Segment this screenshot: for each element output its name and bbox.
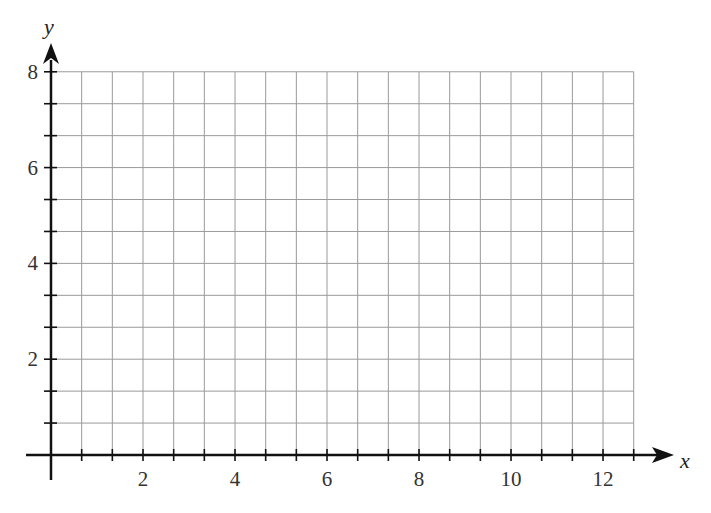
- x-axis-label: x: [679, 448, 690, 473]
- x-tick-label: 6: [322, 467, 333, 491]
- y-axis-label: y: [42, 14, 54, 39]
- y-tick-label: 6: [28, 156, 39, 180]
- y-tick-label: 8: [28, 60, 39, 84]
- tick-labels: 246810122468: [28, 60, 614, 491]
- x-tick-label: 8: [414, 467, 425, 491]
- axes: [26, 43, 674, 480]
- grid-lines: [51, 72, 634, 455]
- x-tick-label: 12: [593, 467, 614, 491]
- y-tick-label: 4: [28, 251, 39, 275]
- x-tick-label: 2: [138, 467, 149, 491]
- x-tick-label: 10: [501, 467, 522, 491]
- coordinate-grid-chart: 246810122468 x y: [0, 0, 711, 513]
- axis-ticks: [44, 72, 634, 461]
- x-tick-label: 4: [230, 467, 241, 491]
- y-tick-label: 2: [28, 347, 39, 371]
